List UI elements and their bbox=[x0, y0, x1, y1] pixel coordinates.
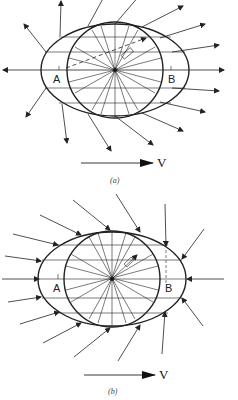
point-a-label: A bbox=[53, 73, 61, 85]
caption-b: (b) bbox=[108, 387, 118, 396]
velocity-label-b: V bbox=[159, 367, 169, 382]
diagram-canvas: A B V (a) bbox=[0, 0, 238, 400]
caption-a: (a) bbox=[110, 176, 120, 185]
figure-a bbox=[3, 0, 224, 151]
point-b-label: B bbox=[168, 73, 175, 85]
center-point bbox=[113, 68, 117, 72]
center-point-b bbox=[110, 277, 114, 281]
velocity-label: V bbox=[157, 155, 167, 170]
point-a-label-b: A bbox=[53, 282, 61, 294]
figure-b bbox=[2, 194, 224, 361]
point-b-label-b: B bbox=[165, 282, 172, 294]
